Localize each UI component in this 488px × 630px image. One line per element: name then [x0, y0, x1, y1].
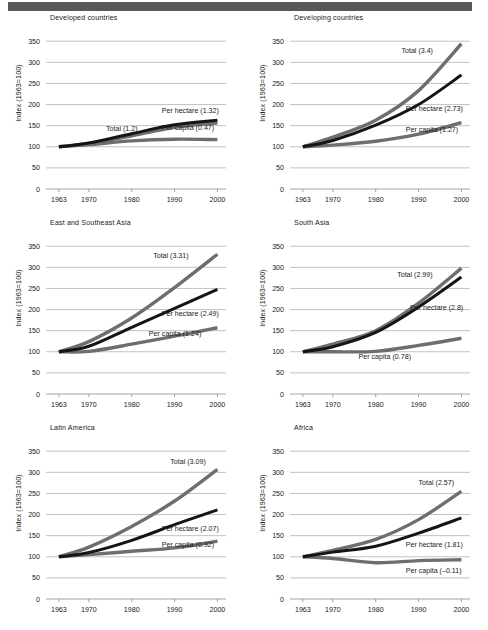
series-annotation-label: Per capita (0.47) [162, 124, 214, 132]
series-annotation-label: Per capita (1.24) [149, 330, 201, 338]
y-tick-label: 350 [28, 38, 40, 46]
plot-area: 0501001502002503003501963197019801990200… [0, 11, 244, 216]
y-tick-label: 100 [28, 553, 40, 561]
x-tick-label: 1980 [368, 606, 384, 614]
y-tick-label: 0 [280, 596, 284, 604]
x-tick-label: 1980 [368, 401, 384, 409]
y-tick-label: 0 [36, 391, 40, 399]
x-tick-label: 1963 [295, 401, 311, 409]
y-tick-label: 50 [32, 369, 40, 377]
series-annotation-label: Total (3.09) [170, 458, 206, 466]
y-tick-label: 200 [28, 306, 40, 314]
x-tick-label: 2000 [210, 606, 226, 614]
x-tick-label: 1963 [51, 196, 67, 204]
series-annotation-label: Per capita (0.78) [359, 353, 411, 361]
top-divider-rule [8, 2, 472, 11]
series-annotation-label: Per capita (1.27) [406, 126, 458, 134]
series-annotation-label: Total (2.99) [397, 271, 433, 279]
y-tick-label: 250 [272, 490, 284, 498]
y-tick-label: 0 [36, 596, 40, 604]
y-tick-label: 200 [28, 511, 40, 519]
series-annotation-label: Per hectare (2.73) [406, 105, 463, 113]
x-tick-label: 1970 [81, 606, 97, 614]
y-tick-label: 50 [276, 164, 284, 172]
y-tick-label: 50 [32, 164, 40, 172]
y-tick-label: 100 [272, 348, 284, 356]
y-tick-label: 50 [32, 574, 40, 582]
x-tick-label: 1990 [411, 606, 427, 614]
plot-area: 0501001502002503003501963197019801990200… [244, 11, 488, 216]
x-tick-label: 1970 [81, 401, 97, 409]
y-tick-label: 350 [272, 38, 284, 46]
y-tick-label: 150 [28, 532, 40, 540]
series-annotation-label: Per hectare (1.32) [162, 107, 219, 115]
series-annotation-label: Per hectare (2.49) [162, 310, 219, 318]
x-tick-label: 1963 [295, 196, 311, 204]
y-tick-label: 150 [28, 327, 40, 335]
x-tick-label: 2000 [210, 401, 226, 409]
y-tick-label: 300 [28, 264, 40, 272]
y-tick-label: 50 [276, 369, 284, 377]
y-tick-label: 200 [272, 306, 284, 314]
plot-area: 0501001502002503003501963197019801990200… [0, 421, 244, 626]
series-annotation-label: Total (3.4) [401, 47, 433, 55]
y-tick-label: 50 [276, 574, 284, 582]
x-tick-label: 1970 [81, 196, 97, 204]
y-tick-label: 300 [272, 469, 284, 477]
y-tick-label: 100 [272, 553, 284, 561]
y-tick-label: 250 [28, 490, 40, 498]
y-tick-label: 250 [28, 285, 40, 293]
y-tick-label: 300 [28, 59, 40, 67]
x-tick-label: 1980 [124, 401, 140, 409]
x-tick-label: 1970 [325, 196, 341, 204]
x-tick-label: 2000 [454, 196, 470, 204]
y-tick-label: 350 [28, 448, 40, 456]
x-tick-label: 1970 [325, 606, 341, 614]
series-annotation-label: Per capita (0.92) [162, 541, 214, 549]
y-tick-label: 350 [272, 243, 284, 251]
x-tick-label: 2000 [454, 401, 470, 409]
y-tick-label: 300 [28, 469, 40, 477]
y-tick-label: 300 [272, 59, 284, 67]
y-tick-label: 150 [272, 122, 284, 130]
plot-area: 0501001502002503003501963197019801990200… [0, 216, 244, 421]
x-tick-label: 1990 [411, 401, 427, 409]
y-tick-label: 250 [28, 80, 40, 88]
x-tick-label: 1963 [295, 606, 311, 614]
series-annotation-label: Per hectare (2.8) [410, 304, 463, 312]
y-tick-label: 250 [272, 80, 284, 88]
y-tick-label: 200 [28, 101, 40, 109]
chart-panel: Latin AmericaIndex (1963=100)05010015020… [0, 421, 244, 630]
x-tick-label: 1980 [124, 196, 140, 204]
x-tick-label: 2000 [210, 196, 226, 204]
y-tick-label: 150 [28, 122, 40, 130]
x-tick-label: 1990 [167, 606, 183, 614]
y-tick-label: 0 [36, 186, 40, 194]
y-tick-label: 200 [272, 101, 284, 109]
y-tick-label: 0 [280, 186, 284, 194]
series-annotation-label: Per capita (–0.11) [406, 567, 462, 575]
plot-area: 0501001502002503003501963197019801990200… [244, 216, 488, 421]
x-tick-label: 2000 [454, 606, 470, 614]
x-tick-label: 1990 [167, 196, 183, 204]
chart-panel: South AsiaIndex (1963=100)05010015020025… [244, 216, 488, 421]
series-annotation-label: Per hectare (2.07) [162, 525, 219, 533]
chart-panel: Developing countriesIndex (1963=100)0501… [244, 11, 488, 216]
series-annotation-label: Total (2.57) [419, 479, 455, 487]
x-tick-label: 1963 [51, 606, 67, 614]
y-tick-label: 200 [272, 511, 284, 519]
chart-panel-grid: Developed countriesIndex (1963=100)05010… [0, 11, 488, 630]
series-line-per-capita [303, 557, 462, 563]
y-tick-label: 100 [28, 348, 40, 356]
y-tick-label: 250 [272, 285, 284, 293]
y-tick-label: 150 [272, 532, 284, 540]
y-tick-label: 300 [272, 264, 284, 272]
series-annotation-label: Total (1.2) [106, 125, 138, 133]
y-tick-label: 100 [272, 143, 284, 151]
x-tick-label: 1963 [51, 401, 67, 409]
x-tick-label: 1980 [368, 196, 384, 204]
x-tick-label: 1970 [325, 401, 341, 409]
plot-area: 0501001502002503003501963197019801990200… [244, 421, 488, 626]
series-annotation-label: Total (3.31) [153, 252, 189, 260]
y-tick-label: 350 [28, 243, 40, 251]
